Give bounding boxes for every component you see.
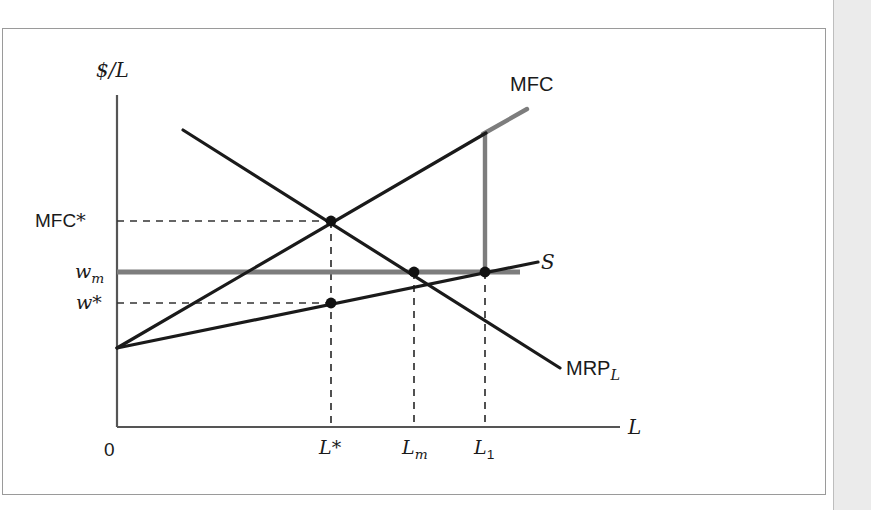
x-tick-l-m-subscript: m (415, 446, 428, 462)
y-tick-mfc-star-suffix: * (76, 209, 86, 231)
y-tick-w-star: w* (76, 293, 102, 312)
y-axis-label: $/L (96, 60, 129, 80)
y-tick-wm-subscript: m (91, 270, 104, 286)
y-tick-wm: wm (75, 262, 104, 285)
x-tick-l-1-subscript: 1 (487, 447, 495, 462)
dashed-guides-group (117, 221, 485, 427)
x-tick-l-1-base: L (474, 436, 487, 458)
x-axis-label: L (628, 417, 641, 437)
curve-label-mrp: MRPL (566, 358, 620, 382)
x-tick-l-m: Lm (402, 438, 428, 461)
x-tick-l-star: L* (319, 438, 341, 457)
economics-diagram (0, 0, 871, 510)
point-l-1 (480, 267, 491, 278)
curve-label-supply: S (541, 252, 555, 272)
x-tick-l-m-base: L (402, 436, 415, 458)
x-tick-l-star-base: L (319, 436, 332, 458)
y-tick-w-star-suffix: * (92, 291, 102, 313)
curve-label-mrp-base: MRP (566, 357, 610, 379)
point-l-m (409, 267, 420, 278)
figure-page: $/L L 0 MFC* wm w* L* Lm L1 MFC S MRPL (0, 0, 871, 510)
point-mfc-star (326, 216, 337, 227)
x-tick-l-star-suffix: * (332, 436, 342, 458)
y-tick-mfc-star: MFC* (35, 211, 86, 230)
x-tick-l-1: L1 (474, 438, 494, 461)
curve-label-mrp-subscript: L (610, 367, 620, 383)
y-tick-mfc-star-base: MFC (35, 210, 76, 231)
curves-group (117, 130, 560, 368)
mfc-curve-extension (483, 109, 527, 134)
point-w-star (326, 298, 337, 309)
y-tick-w-star-base: w (76, 291, 92, 313)
origin-label: 0 (104, 440, 115, 459)
mfc-curve (117, 133, 486, 348)
mrp-curve (183, 130, 560, 368)
curve-label-mfc: MFC (510, 74, 553, 94)
y-tick-wm-base: w (75, 260, 91, 282)
marked-points-group (326, 216, 491, 309)
